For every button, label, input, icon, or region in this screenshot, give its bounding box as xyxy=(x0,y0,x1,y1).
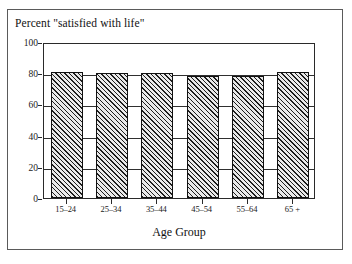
bar xyxy=(141,73,173,198)
y-axis-tick-mark xyxy=(38,168,42,169)
bar-series xyxy=(44,44,314,198)
y-axis-tick-label: 40 xyxy=(29,132,39,142)
plot-area xyxy=(43,43,315,199)
x-axis-tick-label: 55–64 xyxy=(237,204,258,214)
y-axis-tick-label: 60 xyxy=(29,100,39,110)
x-axis-tick-label: 15–24 xyxy=(55,204,76,214)
chart-figure: Percent "satisfied with life" 0204060801… xyxy=(0,0,352,264)
x-axis-tick-label: 65 + xyxy=(285,204,300,214)
y-axis-tick-labels: 020406080100 xyxy=(8,43,38,199)
y-axis-tick-label: 100 xyxy=(24,38,38,48)
x-axis-tick-label: 45–54 xyxy=(191,204,212,214)
y-axis-tick-label: 20 xyxy=(29,163,39,173)
bar xyxy=(51,72,83,198)
x-axis-tick-label: 25–34 xyxy=(101,204,122,214)
y-axis-tick-mark xyxy=(38,105,42,106)
chart-title: Percent "satisfied with life" xyxy=(15,17,145,29)
bar xyxy=(277,72,309,198)
x-axis-tick-labels: 15–2425–3435–4445–5455–6465 + xyxy=(43,204,315,218)
bar xyxy=(187,76,219,198)
y-axis-tick-mark xyxy=(38,43,42,44)
bar xyxy=(232,76,264,198)
bar xyxy=(96,73,128,198)
y-axis-tick-mark xyxy=(38,199,42,200)
x-axis-tick-label: 35–44 xyxy=(146,204,167,214)
y-axis-tick-mark xyxy=(38,74,42,75)
y-axis-tick-label: 80 xyxy=(29,69,39,79)
y-axis-tick-mark xyxy=(38,137,42,138)
x-axis-title: Age Group xyxy=(43,225,315,240)
